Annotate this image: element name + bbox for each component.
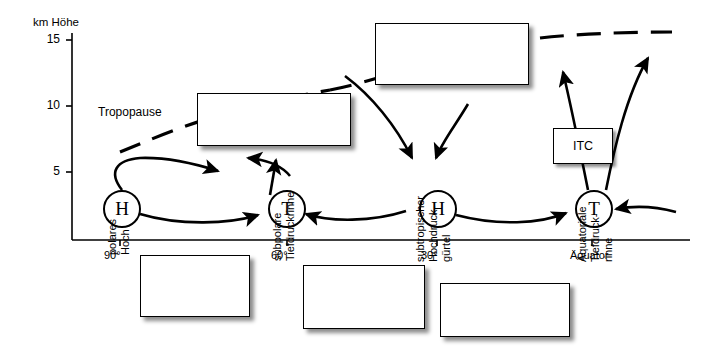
tropopause-dashed-tropical (540, 32, 672, 38)
ground-label-line: Tiefdruck- (589, 206, 602, 262)
callout-box-ground-3 (440, 283, 570, 337)
ground-label-subpolar-low: subpolare Tiefdruckrinne (271, 192, 297, 261)
ground-label-line: Tiefdruckrinne (284, 192, 297, 261)
callout-box-upper-left (197, 93, 351, 146)
callout-box-ground-2 (303, 265, 425, 329)
itc-label: ITC (573, 139, 593, 153)
ground-label-line: Hoch (119, 219, 132, 255)
callout-box-upper-right (375, 23, 529, 85)
ground-label-subtropical-high: subtropischer Hochdruck- gürtel (414, 196, 453, 262)
arrow-surface-h30-to-t60 (306, 211, 406, 220)
ground-label-line: polares (106, 219, 119, 255)
itc-box: ITC (553, 128, 613, 164)
ground-label-line: subtropischer (414, 196, 427, 262)
ground-label-line: subpolare (271, 192, 284, 261)
ground-label-equatorial-low: Äquatoriale Tiefdruck- rinne (576, 206, 615, 262)
diagram-canvas: km Höhe 15 10 5 90° 60° 30° Äquator Trop… (0, 0, 706, 354)
arrow-trade-winds (456, 213, 566, 222)
arrow-polar-upper (115, 158, 218, 190)
ground-label-polar-high: polares Hoch (106, 219, 132, 255)
arrow-descend-left-h30 (345, 76, 412, 158)
y-tick-label-15: 15 (32, 32, 60, 46)
ground-label-line: Äquatoriale (576, 206, 589, 262)
arrow-descend-right-h30 (436, 104, 468, 158)
arrow-tropopause-to-t60 (248, 158, 290, 176)
y-tick-label-10: 10 (32, 98, 60, 112)
callout-box-ground-1 (140, 255, 250, 317)
arrow-polar-surface (140, 214, 258, 222)
arrow-rising-equator-right (606, 58, 648, 190)
tropopause-label: Tropopause (98, 105, 162, 119)
y-axis-title: km Höhe (33, 16, 79, 28)
ground-label-line: rinne (602, 206, 615, 262)
pressure-cell-symbol: H (115, 198, 129, 220)
ground-label-line: Hochdruck- (427, 196, 440, 262)
ground-label-line: gürtel (440, 196, 453, 262)
arrow-inflow-right (616, 207, 676, 212)
y-tick-label-5: 5 (32, 164, 60, 178)
